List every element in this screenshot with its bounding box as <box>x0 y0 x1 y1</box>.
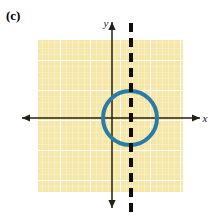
figure-panel: (c) x y <box>0 0 216 222</box>
x-axis-arrow-left-icon <box>22 114 30 121</box>
y-axis-arrow-up-icon <box>108 22 115 30</box>
graph-canvas: x y <box>0 0 216 222</box>
x-axis-arrow-right-icon <box>192 114 200 121</box>
x-axis-label: x <box>202 112 208 124</box>
y-axis-arrow-down-icon <box>108 200 115 208</box>
graph-paper-region <box>38 40 183 192</box>
y-axis-label: y <box>103 17 109 29</box>
